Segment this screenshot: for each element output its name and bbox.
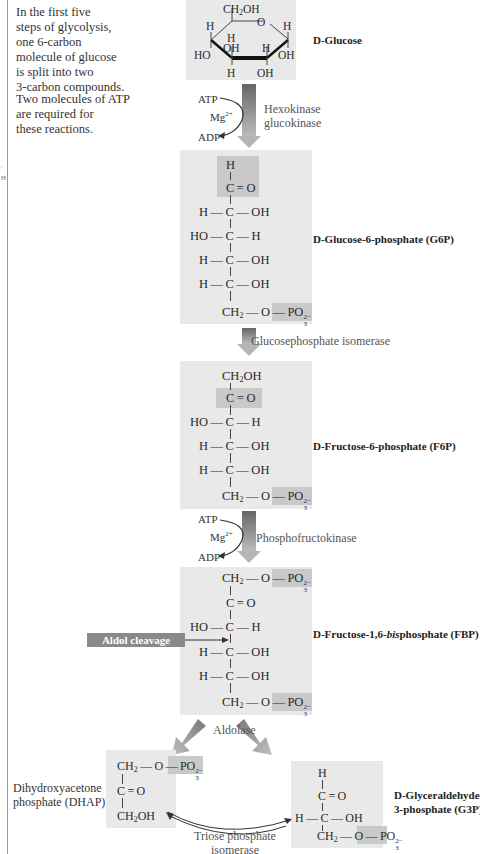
- label-prefix: D: [313, 440, 321, 452]
- g3p-row: H: [318, 766, 327, 780]
- fbp-row: HO — C — H: [190, 620, 260, 634]
- g6p-label: D-Glucose-6-phosphate (G6P): [313, 233, 454, 245]
- bond: [322, 780, 323, 789]
- f6p-label: D-Fructose-6-phosphate (F6P): [313, 440, 456, 452]
- label-text: phosphate (FBP): [399, 628, 478, 640]
- enzyme-triose-phosphate-isomerase: Triose phosphate isomerase: [190, 829, 280, 854]
- enzyme-line: Triose phosphate: [190, 829, 280, 843]
- g6p-row: H: [226, 158, 235, 172]
- label-text: -Glyceraldehyde-: [402, 789, 480, 801]
- mg-text: Mg: [210, 531, 225, 543]
- bond: [230, 477, 231, 487]
- f6p-row: H — C — OH: [199, 463, 269, 477]
- adp-label: ADP: [198, 551, 220, 563]
- glucose-ring-o: O: [257, 15, 265, 29]
- intro-line: one 6-carbon: [16, 35, 166, 50]
- margin-mark: H: [1, 174, 6, 182]
- g3p-row: H — C — OH: [295, 811, 363, 825]
- dhap-bottom: CH2OH: [117, 809, 155, 827]
- glucose-right-oh: OH: [278, 48, 295, 62]
- bond: [230, 383, 231, 390]
- glucose-inner-oh: OH: [223, 41, 240, 55]
- bond: [230, 243, 231, 252]
- label-text: -Glucose-6-phosphate (G6P): [321, 233, 454, 245]
- glucose-left-ho: HO: [194, 48, 211, 62]
- enzyme-line: glucokinase: [264, 116, 321, 130]
- label-line: D-Glyceraldehyde-: [394, 788, 480, 802]
- bond: [230, 683, 231, 693]
- f6p-top: CH2OH: [222, 369, 261, 387]
- label-prefix: D: [313, 233, 321, 245]
- bond: [322, 803, 323, 811]
- mg-charge: 2+: [225, 530, 232, 538]
- f6p-row: C = O: [226, 391, 255, 405]
- fbp-label: D-Fructose-1,6-bisphosphate (FBP): [313, 628, 479, 640]
- g6p-row: HO — C — H: [190, 229, 260, 243]
- margin-rule: [7, 0, 8, 854]
- g3p-label: D-Glyceraldehyde- 3-phosphate (G3P): [394, 788, 480, 816]
- bond: [230, 429, 231, 439]
- mg-text: Mg: [210, 111, 225, 123]
- label-prefix: D: [394, 789, 402, 801]
- g3p-row: C = O: [318, 789, 346, 803]
- bond: [230, 267, 231, 276]
- intro-line: molecule of glucose: [16, 50, 166, 65]
- label-line: phosphate (DHAP): [13, 795, 105, 809]
- mg-label: Mg2+: [210, 110, 233, 123]
- margin-mark: ⁄: [0, 164, 1, 172]
- bond: [122, 774, 123, 784]
- glucose-bottom-h: H: [227, 66, 235, 80]
- atp-label: ATP: [198, 93, 218, 105]
- glucose-ch2oh: CH2OH: [223, 2, 260, 20]
- bond: [230, 659, 231, 668]
- bond: [230, 610, 231, 619]
- intro-line: In the first five: [16, 5, 166, 20]
- glucose-right-h: H: [283, 19, 291, 33]
- intro-line: is split into two: [16, 65, 166, 80]
- enzyme-glucosephosphate-isomerase: Glucosephosphate isomerase: [251, 334, 390, 348]
- g6p-row: H — C — OH: [199, 253, 269, 267]
- bond: [122, 798, 123, 808]
- g3p-bottom: CH2 — O — PO2−3: [317, 829, 403, 852]
- bond: [230, 172, 231, 180]
- fbp-row: H — C — OH: [199, 669, 269, 683]
- intro-paragraph-1: In the first five steps of glycolysis, o…: [16, 5, 166, 95]
- f6p-row: H — C — OH: [199, 439, 269, 453]
- glucose-inner-h2: H: [262, 41, 270, 55]
- intro-line: are required for: [16, 107, 166, 122]
- bond: [230, 586, 231, 595]
- bond: [230, 405, 231, 415]
- intro-paragraph-2: Two molecules of ATP are required for th…: [16, 92, 166, 137]
- glucose-bottom-oh: OH: [257, 66, 274, 80]
- mg-charge: 2+: [225, 110, 232, 118]
- label-line: 3-phosphate (G3P): [394, 802, 480, 816]
- intro-line: these reactions.: [16, 122, 166, 137]
- label-prefix: D: [313, 628, 321, 640]
- fbp-row: C = O: [226, 596, 255, 610]
- f6p-bottom: CH2 — O — PO2−3: [222, 489, 311, 512]
- enzyme-phosphofructokinase: Phosphofructokinase: [256, 531, 357, 545]
- glucose-label: D-Glucose: [313, 34, 362, 46]
- bond: [230, 291, 231, 301]
- enzyme-aldolase: Aldolase: [213, 723, 256, 737]
- bond: [230, 195, 231, 204]
- fbp-top: CH2 — O — PO2−3: [222, 571, 311, 594]
- g6p-row: C = O: [226, 181, 255, 195]
- g6p-bottom: CH2 — O — PO2−3: [222, 305, 311, 328]
- f6p-row: HO — C — H: [190, 415, 260, 429]
- enzyme-line: Hexokinase: [264, 102, 321, 116]
- label-italic: bis: [387, 628, 400, 640]
- bond: [230, 453, 231, 463]
- aldol-cleavage-badge: Aldol cleavage: [87, 633, 185, 647]
- dhap-top: CH2 — O — PO2−3: [117, 759, 203, 782]
- label-line: Dihydroxyacetone: [13, 781, 105, 795]
- intro-line: Two molecules of ATP: [16, 92, 166, 107]
- bond: [230, 219, 231, 228]
- intro-line: steps of glycolysis,: [16, 20, 166, 35]
- adp-label: ADP: [198, 131, 220, 143]
- g6p-row: H — C — OH: [199, 205, 269, 219]
- glucose-left-h: H: [206, 19, 214, 33]
- enzyme-line: isomerase: [190, 843, 280, 854]
- dhap-middle: C = O: [117, 784, 145, 798]
- atp-label: ATP: [198, 513, 218, 525]
